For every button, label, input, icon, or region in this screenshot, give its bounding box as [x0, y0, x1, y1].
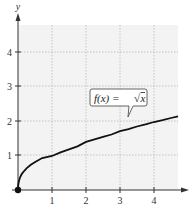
x-tick-label-3: 3 — [118, 195, 123, 206]
callout-function-label: f(x) = — [94, 92, 119, 105]
x-tick-label-1: 1 — [50, 195, 55, 206]
x-tick-label-4: 4 — [152, 195, 157, 206]
chart: 1 2 3 4 4 3 2 1 y f(x) = √ x — [0, 0, 190, 209]
callout-radicand: x — [140, 92, 146, 104]
y-axis-label: y — [15, 1, 21, 12]
y-tick-label-2: 2 — [7, 116, 12, 127]
y-tick-label-1: 1 — [7, 150, 12, 161]
x-tick-label-2: 2 — [84, 195, 89, 206]
y-axis-arrow-icon — [16, 13, 21, 21]
y-tick-label-3: 3 — [7, 81, 12, 92]
x-axis-arrow-icon — [181, 188, 189, 193]
origin-point — [15, 187, 21, 193]
y-tick-label-4: 4 — [7, 47, 12, 58]
